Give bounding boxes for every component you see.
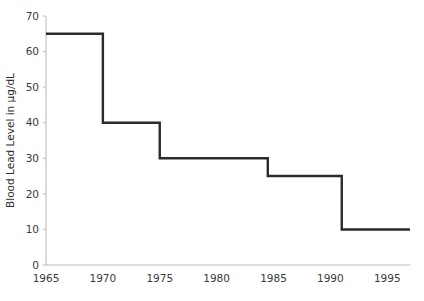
x-axis-group: 1965197019751980198519901995 xyxy=(33,265,410,284)
x-axis-tick-labels: 1965197019751980198519901995 xyxy=(33,272,401,284)
y-tick-label: 10 xyxy=(26,223,39,235)
y-tick-label: 50 xyxy=(26,81,39,93)
y-tick-label: 30 xyxy=(26,152,39,164)
x-tick-label: 1995 xyxy=(374,272,401,284)
x-tick-label: 1975 xyxy=(146,272,173,284)
y-tick-label: 60 xyxy=(26,45,39,57)
y-tick-label: 40 xyxy=(26,116,39,128)
chart-canvas: 010203040506070 196519701975198019851990… xyxy=(0,0,424,301)
y-axis-tick-labels: 010203040506070 xyxy=(26,10,39,271)
blood-lead-step-line xyxy=(46,34,410,230)
y-axis-group: 010203040506070 xyxy=(26,10,46,271)
blood-lead-step-chart: 010203040506070 196519701975198019851990… xyxy=(0,0,424,301)
y-axis-title: Blood Lead Level in µg/dL xyxy=(4,73,16,208)
x-tick-label: 1980 xyxy=(203,272,230,284)
y-tick-label: 70 xyxy=(26,10,39,22)
y-tick-label: 0 xyxy=(32,259,39,271)
y-tick-label: 20 xyxy=(26,188,39,200)
x-tick-label: 1965 xyxy=(33,272,60,284)
x-tick-label: 1990 xyxy=(317,272,344,284)
x-tick-label: 1985 xyxy=(260,272,287,284)
x-tick-label: 1970 xyxy=(90,272,117,284)
